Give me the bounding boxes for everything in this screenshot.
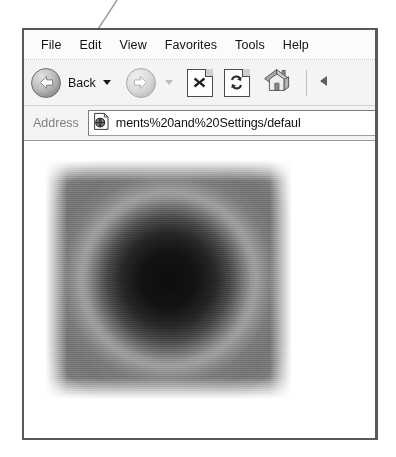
menu-item-edit[interactable]: Edit — [71, 38, 111, 52]
page-content-area — [24, 141, 375, 437]
browser-window: File Edit View Favorites Tools Help Back — [22, 28, 378, 440]
forward-button[interactable] — [126, 68, 176, 98]
home-icon — [262, 67, 292, 95]
back-dropdown-caret-icon[interactable] — [103, 80, 111, 85]
menu-item-view[interactable]: View — [111, 38, 156, 52]
address-value: ments%20and%20Settings/defaul — [116, 116, 301, 130]
search-button-clipped[interactable] — [317, 68, 333, 98]
stop-x-glyph-icon — [187, 69, 213, 97]
back-button[interactable]: Back — [31, 63, 114, 103]
toolbar-separator — [306, 70, 307, 96]
refresh-button[interactable] — [224, 69, 250, 97]
forward-dropdown-caret-icon[interactable] — [165, 80, 173, 85]
refresh-arrows-glyph-icon — [224, 69, 250, 97]
address-label: Address — [33, 116, 79, 130]
back-button-label: Back — [68, 76, 96, 90]
stop-button[interactable] — [187, 69, 213, 97]
address-bar: Address ments%20and%20Settings/defaul — [24, 106, 375, 141]
menu-item-file[interactable]: File — [32, 38, 71, 52]
home-button[interactable] — [262, 67, 292, 99]
grayscale-radial-gradient-image — [45, 160, 292, 399]
clipped-toolbar-icon — [317, 68, 333, 94]
back-arrow-icon — [31, 68, 61, 98]
page-globe-icon — [93, 112, 110, 135]
address-input[interactable]: ments%20and%20Settings/defaul — [88, 110, 378, 136]
menu-bar: File Edit View Favorites Tools Help — [24, 30, 375, 60]
gradient-edge-fade — [45, 160, 292, 399]
toolbar: Back — [24, 60, 375, 106]
menu-item-tools[interactable]: Tools — [226, 38, 274, 52]
menu-item-help[interactable]: Help — [274, 38, 318, 52]
forward-arrow-icon — [126, 68, 156, 98]
menu-item-favorites[interactable]: Favorites — [156, 38, 226, 52]
